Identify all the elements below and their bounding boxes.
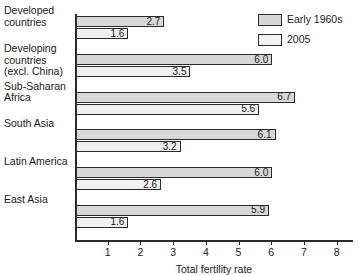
- category-label-line: Latin America: [4, 156, 74, 168]
- bar-early-1960s-5: 5.9: [76, 205, 269, 216]
- x-tick-7: [304, 240, 305, 245]
- bar-2005-2: 5.6: [76, 104, 259, 115]
- category-label-line: Developing: [4, 43, 74, 55]
- category-label-3: South Asia: [4, 118, 74, 130]
- bar-2005-1: 3.5: [76, 66, 190, 77]
- x-tick-1: [108, 240, 109, 245]
- category-label-4: Latin America: [4, 156, 74, 168]
- category-label-line: (excl. China): [4, 66, 74, 78]
- category-label-line: Africa: [4, 92, 74, 104]
- category-label-5: East Asia: [4, 194, 74, 206]
- bar-value-label: 6.7: [277, 92, 294, 102]
- x-axis-line: [75, 240, 353, 242]
- plot-area: 12345678 2.71.66.03.56.75.66.13.26.02.65…: [75, 14, 353, 240]
- x-tick-8: [337, 240, 338, 245]
- bar-value-label: 6.1: [258, 130, 275, 140]
- bar-early-1960s-2: 6.7: [76, 92, 295, 103]
- category-label-0: Developedcountries: [4, 5, 74, 28]
- x-tick-label-3: 3: [163, 246, 183, 258]
- category-label-2: Sub-SaharanAfrica: [4, 81, 74, 104]
- category-label-line: East Asia: [4, 194, 74, 206]
- category-label-line: South Asia: [4, 118, 74, 130]
- x-tick-label-6: 6: [261, 246, 281, 258]
- bar-value-label: 2.6: [143, 180, 160, 190]
- bar-early-1960s-3: 6.1: [76, 129, 276, 140]
- bar-early-1960s-4: 6.0: [76, 167, 272, 178]
- bar-2005-3: 3.2: [76, 141, 181, 152]
- bar-2005-5: 1.6: [76, 217, 128, 228]
- category-label-1: Developingcountries(excl. China): [4, 43, 74, 78]
- x-tick-label-8: 8: [327, 246, 347, 258]
- x-tick-label-5: 5: [229, 246, 249, 258]
- x-axis-title: Total fertility rate: [75, 263, 353, 275]
- x-tick-label-1: 1: [98, 246, 118, 258]
- bar-value-label: 5.9: [251, 205, 268, 215]
- bar-value-label: 6.0: [254, 168, 271, 178]
- bar-2005-0: 1.6: [76, 28, 128, 39]
- bar-value-label: 3.5: [173, 67, 190, 77]
- x-tick-5: [239, 240, 240, 245]
- x-tick-label-4: 4: [196, 246, 216, 258]
- x-tick-label-2: 2: [130, 246, 150, 258]
- bar-2005-4: 2.6: [76, 179, 161, 190]
- x-tick-4: [206, 240, 207, 245]
- bar-value-label: 2.7: [146, 17, 163, 27]
- x-tick-6: [271, 240, 272, 245]
- bar-value-label: 1.6: [110, 29, 127, 39]
- category-label-line: countries: [4, 17, 74, 29]
- bar-value-label: 6.0: [254, 55, 271, 65]
- bar-value-label: 5.6: [241, 104, 258, 114]
- bar-value-label: 1.6: [110, 217, 127, 227]
- bar-early-1960s-0: 2.7: [76, 16, 164, 27]
- x-tick-label-7: 7: [294, 246, 314, 258]
- x-tick-2: [140, 240, 141, 245]
- bar-early-1960s-1: 6.0: [76, 54, 272, 65]
- bar-value-label: 3.2: [163, 142, 180, 152]
- x-tick-3: [173, 240, 174, 245]
